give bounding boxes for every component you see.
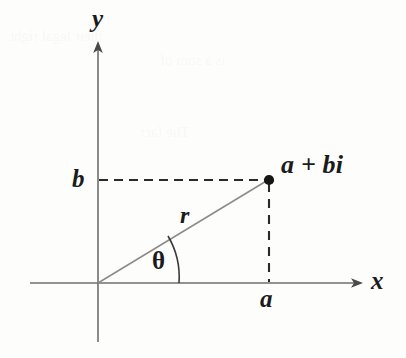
real-part-label: a xyxy=(260,286,273,311)
y-axis-label: y xyxy=(92,6,103,31)
complex-number-label: a + bi xyxy=(281,152,343,178)
radius-segment xyxy=(98,180,268,283)
diagram-canvas xyxy=(0,0,406,358)
complex-point-marker xyxy=(264,175,274,185)
angle-theta-label: θ xyxy=(152,248,165,273)
complex-plane-figure: their legal right. is a sum of The fact … xyxy=(0,0,406,358)
imaginary-part-label: b xyxy=(72,166,85,191)
radius-label: r xyxy=(180,203,189,227)
angle-arc xyxy=(168,236,179,283)
x-axis-label: x xyxy=(371,268,384,293)
